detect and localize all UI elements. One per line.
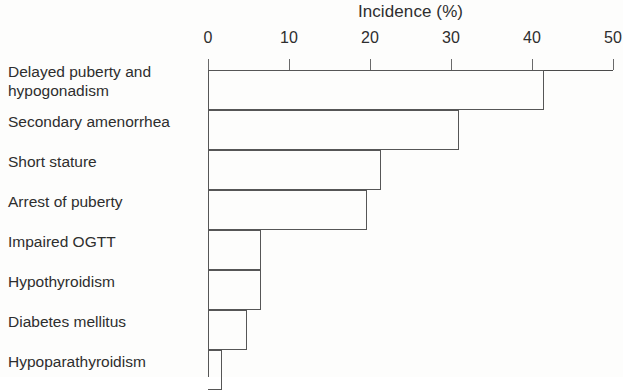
- category-label: Short stature: [8, 152, 204, 171]
- bar: [208, 310, 247, 350]
- category-label: Hypoparathyroidism: [8, 352, 204, 371]
- x-tick-mark: [532, 59, 533, 70]
- bar-row: [208, 230, 613, 270]
- bar-row: [208, 270, 613, 310]
- bar-row: [208, 70, 613, 110]
- bar-row: [208, 190, 613, 230]
- x-tick-label: 20: [361, 29, 379, 47]
- x-tick-mark: [613, 59, 614, 70]
- x-tick-label: 30: [442, 29, 460, 47]
- bar: [208, 350, 222, 390]
- bar: [208, 190, 367, 230]
- x-tick-mark: [451, 59, 452, 70]
- category-label: Impaired OGTT: [8, 232, 204, 251]
- plot-area: [208, 70, 613, 377]
- x-tick-label: 10: [280, 29, 298, 47]
- bar-row: [208, 310, 613, 350]
- x-tick-mark: [208, 59, 209, 70]
- bar: [208, 70, 544, 110]
- bar-row: [208, 150, 613, 190]
- bar: [208, 230, 261, 270]
- x-tick-label: 0: [204, 29, 213, 47]
- x-tick-mark: [370, 59, 371, 70]
- category-label: Hypothyroidism: [8, 272, 204, 291]
- bar: [208, 270, 261, 310]
- category-label: Diabetes mellitus: [8, 312, 204, 331]
- category-label: Delayed puberty and hypogonadism: [8, 62, 204, 100]
- bar: [208, 150, 381, 190]
- bar-row: [208, 110, 613, 150]
- bar-row: [208, 350, 613, 390]
- category-label: Arrest of puberty: [8, 192, 204, 211]
- bar: [208, 110, 459, 150]
- x-tick-mark: [289, 59, 290, 70]
- category-label: Secondary amenorrhea: [8, 112, 204, 131]
- chart-title: Incidence (%): [208, 2, 613, 22]
- x-tick-label: 50: [604, 29, 622, 47]
- x-tick-label: 40: [523, 29, 541, 47]
